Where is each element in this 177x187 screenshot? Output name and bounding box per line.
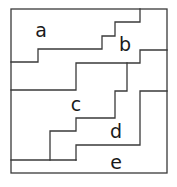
region-label-a: a xyxy=(35,21,47,40)
boundary-b-lower xyxy=(11,50,167,90)
region-label-c: c xyxy=(71,95,81,114)
partition-diagram xyxy=(0,0,177,187)
region-label-d: d xyxy=(110,122,122,141)
region-label-b: b xyxy=(119,35,131,54)
region-label-e: e xyxy=(110,153,122,172)
